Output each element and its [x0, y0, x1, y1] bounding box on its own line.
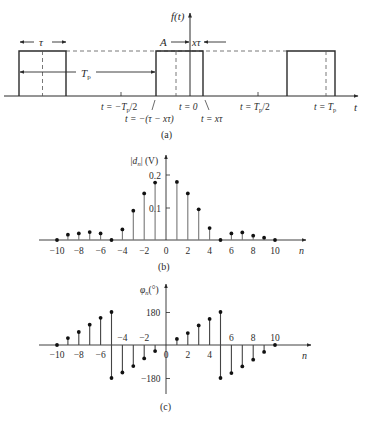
ytick-label-0.2: 0.2: [149, 171, 161, 181]
tick-label-neg-half-period: t = −Tp/2: [101, 102, 137, 113]
tick-label-pulse-start: t = −(τ − xτ): [125, 114, 174, 125]
xtick-label: 2: [185, 246, 190, 256]
pulse-3: [287, 51, 335, 96]
magnitude-point: [55, 238, 59, 242]
xtick-label: −4: [117, 333, 127, 343]
xtick-label: 6: [229, 246, 234, 256]
phase-point: [208, 317, 212, 321]
pulse-2: [156, 51, 203, 96]
phase-point: [66, 336, 70, 340]
phase-x-ticks: −10−8−6024−4−26810: [50, 333, 280, 360]
magnitude-point: [142, 192, 146, 196]
magnitude-axis-label: |dn| (V): [130, 156, 158, 167]
tau-label: τ: [39, 36, 44, 48]
xtick-label: −6: [96, 246, 106, 256]
xtick-label: 8: [251, 333, 256, 343]
tick-label-pulse-end: t = xτ: [201, 114, 223, 124]
panel-b-magnitude-spectrum: 0.1 0.2 |dn| (V) n −10−8−6−4−20246810 (b…: [39, 155, 306, 273]
tick-label-zero: t = 0: [179, 102, 198, 112]
xtick-label: −4: [117, 246, 127, 256]
magnitude-point: [88, 230, 92, 234]
panel-b-label: (b): [158, 261, 170, 273]
pulse-start-leader: [152, 100, 155, 110]
magnitude-point: [251, 234, 255, 238]
ytick-label-neg-180: −180: [141, 374, 161, 384]
magnitude-point: [230, 232, 234, 236]
magnitude-point: [197, 207, 201, 211]
magnitude-point: [99, 232, 103, 236]
phase-point: [110, 376, 114, 380]
phase-point: [77, 330, 81, 334]
phase-point: [110, 310, 114, 314]
panel-c-phase-spectrum: 180 −180 φn(°) n −10−8−6024−4−26810 (c): [39, 284, 311, 413]
phase-point: [175, 337, 179, 341]
xtick-label: −2: [139, 246, 149, 256]
xtick-label: −10: [50, 246, 65, 256]
xtick-label: 6: [229, 333, 234, 343]
xtick-label: 4: [207, 246, 212, 256]
magnitude-point: [186, 192, 190, 196]
phase-point: [153, 349, 157, 353]
panel-c-label: (c): [160, 401, 171, 413]
xtick-label: −8: [74, 246, 84, 256]
phase-point: [197, 323, 201, 327]
panel-a-label: (a): [161, 129, 172, 141]
magnitude-point: [121, 228, 125, 232]
magnitude-point: [262, 236, 266, 240]
phase-point: [131, 364, 135, 368]
phase-point: [121, 371, 125, 375]
period-label: Tp: [81, 67, 91, 81]
magnitude-point: [77, 232, 81, 236]
xtick-label: 0: [164, 350, 169, 360]
phase-point: [88, 323, 92, 327]
phase-point: [142, 356, 146, 360]
xtick-label: 0: [164, 246, 169, 256]
tick-label-pos-half-period: t = Tp/2: [240, 102, 270, 113]
phase-point: [219, 376, 223, 380]
phase-point: [273, 343, 277, 347]
pulse-end-leader: [205, 100, 209, 110]
figure-canvas: τ Tp A xτ f(t) t t = −Tp/2 t = 0 t = Tp/…: [0, 0, 367, 425]
xtick-label: −8: [74, 350, 84, 360]
panel-a-time-signal: τ Tp A xτ f(t) t t = −Tp/2 t = 0 t = Tp/…: [4, 10, 358, 141]
magnitude-point: [208, 226, 212, 230]
magnitude-point: [273, 238, 277, 242]
phase-axis-label: φn(°): [140, 285, 159, 296]
magnitude-point: [131, 209, 135, 213]
magnitude-point: [110, 238, 114, 242]
phase-point: [230, 371, 234, 375]
magnitude-point: [153, 181, 157, 185]
xtick-label: −10: [50, 350, 65, 360]
xtick-label: −6: [96, 350, 106, 360]
xtick-label: 10: [270, 333, 280, 343]
phase-point: [99, 316, 103, 320]
phase-point: [240, 365, 244, 369]
magnitude-point: [219, 238, 223, 242]
t-axis-label: t: [354, 101, 358, 113]
xtick-label: 2: [185, 350, 190, 360]
magnitude-x-ticks: −10−8−6−4−20246810: [50, 246, 280, 256]
phase-point: [262, 350, 266, 354]
xtick-label: 4: [207, 350, 212, 360]
magnitude-point: [66, 233, 70, 237]
n-axis-label-b: n: [299, 245, 304, 256]
phase-point: [219, 310, 223, 314]
xtau-label: xτ: [191, 37, 202, 48]
phase-point: [251, 358, 255, 362]
n-axis-label-c: n: [302, 350, 307, 361]
ytick-label-180: 180: [146, 308, 161, 318]
phase-point: [186, 331, 190, 335]
tick-label-period: t = Tp: [314, 102, 336, 113]
f-axis-label: f(t): [171, 10, 185, 23]
phase-point: [55, 343, 59, 347]
xtick-label: 10: [270, 246, 280, 256]
amplitude-label: A: [159, 36, 167, 48]
xtick-label: 8: [251, 246, 256, 256]
magnitude-point: [240, 231, 244, 235]
magnitude-point: [175, 180, 179, 184]
xtick-label: −2: [139, 333, 149, 343]
